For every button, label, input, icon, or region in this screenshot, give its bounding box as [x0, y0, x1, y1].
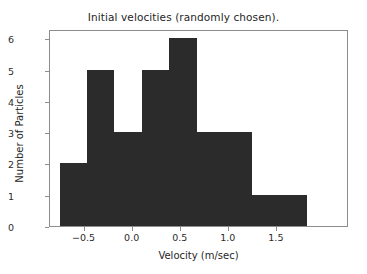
histogram-bar: [197, 132, 224, 226]
x-tick-mark: [132, 227, 133, 231]
x-tick-label: −0.5: [61, 232, 107, 243]
y-axis-label: Number of Particles: [14, 49, 25, 219]
x-tick-mark: [276, 227, 277, 231]
histogram-bar: [60, 163, 88, 226]
y-tick-label: 0: [0, 222, 14, 233]
y-tick-mark: [45, 164, 49, 165]
x-tick-label: 1.5: [253, 232, 299, 243]
x-tick-label: 1.0: [205, 232, 251, 243]
histogram-bar: [142, 70, 169, 226]
histogram-bar: [169, 38, 197, 226]
x-tick-label: 0.0: [109, 232, 155, 243]
chart-title: Initial velocities (randomly chosen).: [0, 11, 367, 23]
x-tick-mark: [180, 227, 181, 231]
y-tick-label: 5: [0, 65, 14, 76]
y-tick-label: 3: [0, 128, 14, 139]
x-tick-mark: [228, 227, 229, 231]
histogram-bar: [252, 195, 279, 226]
y-tick-label: 6: [0, 34, 14, 45]
y-tick-mark: [45, 133, 49, 134]
y-tick-mark: [45, 227, 49, 228]
histogram-bar: [224, 132, 252, 226]
histogram-bar: [279, 195, 307, 226]
x-axis-label: Velocity (m/sec): [49, 250, 348, 261]
histogram-bar: [87, 70, 114, 226]
x-tick-label: 0.5: [157, 232, 203, 243]
x-tick-mark: [84, 227, 85, 231]
y-tick-mark: [45, 71, 49, 72]
y-tick-mark: [45, 196, 49, 197]
histogram-bar: [114, 132, 142, 226]
y-tick-mark: [45, 102, 49, 103]
plot-area: [49, 30, 348, 227]
y-tick-label: 2: [0, 159, 14, 170]
y-tick-label: 1: [0, 190, 14, 201]
histogram-bars: [50, 31, 347, 226]
histogram-figure: Initial velocities (randomly chosen). Nu…: [0, 0, 367, 274]
y-tick-label: 4: [0, 96, 14, 107]
y-tick-mark: [45, 39, 49, 40]
